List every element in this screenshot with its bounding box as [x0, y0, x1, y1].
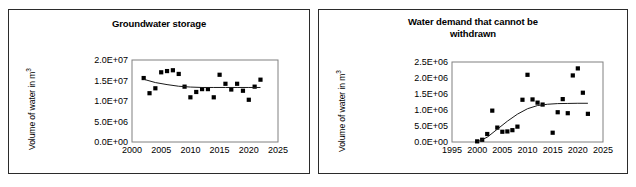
y-axis-label-left-exponent: 3: [25, 68, 32, 71]
y-tick-label: 2.0E+07: [94, 55, 128, 65]
data-point: [576, 66, 580, 70]
x-tick-label: 2020: [568, 145, 588, 155]
data-point: [241, 89, 245, 93]
data-point: [566, 111, 570, 115]
data-point: [500, 130, 504, 134]
data-point: [165, 69, 169, 73]
data-point: [171, 68, 175, 72]
data-point: [229, 87, 233, 91]
data-point: [490, 109, 494, 113]
data-point: [561, 97, 565, 101]
two-chart-figure: Groundwater storage Volume of water in m…: [0, 0, 636, 187]
scatter-plot-water-demand: 0.0E+005.0E+051.0E+061.5E+062.0E+062.5E+…: [404, 60, 609, 158]
y-tick-label: 2.0E+06: [414, 73, 448, 83]
y-axis-label-right: Volume of water in m3: [335, 70, 347, 152]
data-point: [530, 97, 534, 101]
data-point: [586, 112, 590, 116]
x-tick-label: 2000: [122, 145, 142, 155]
data-point: [194, 90, 198, 94]
panel-groundwater-storage: Groundwater storage Volume of water in m…: [8, 9, 310, 174]
y-axis-label-right-exponent: 3: [335, 70, 342, 73]
y-tick-label: 1.5E+06: [414, 89, 448, 99]
data-point: [159, 70, 163, 74]
data-point: [188, 95, 192, 99]
y-tick-label: 2.5E+06: [414, 57, 448, 67]
x-tick-label: 2020: [239, 145, 259, 155]
chart-title-groundwater-storage: Groundwater storage: [9, 18, 309, 30]
chart-title-water-demand-line1: Water demand that cannot be: [319, 16, 627, 28]
data-point: [556, 110, 560, 114]
x-tick-label: 2005: [151, 145, 171, 155]
y-axis-label-right-text: Volume of water in m: [337, 74, 347, 152]
data-point: [525, 73, 529, 77]
data-point: [515, 125, 519, 129]
x-tick-label: 2015: [210, 145, 230, 155]
data-point: [520, 98, 524, 102]
panel-water-demand: Water demand that cannot be withdrawn Vo…: [318, 9, 628, 174]
plot-area-right: 0.0E+005.0E+051.0E+061.5E+062.0E+062.5E+…: [404, 60, 609, 158]
data-point: [551, 131, 555, 135]
data-point: [147, 91, 151, 95]
x-tick-label: 2025: [268, 145, 288, 155]
data-point: [223, 82, 227, 86]
x-tick-label: 2010: [180, 145, 200, 155]
y-tick-label: 1.0E+07: [94, 96, 128, 106]
x-tick-label: 2010: [517, 145, 537, 155]
data-point: [153, 86, 157, 90]
data-point: [510, 128, 514, 132]
chart-title-water-demand: Water demand that cannot be withdrawn: [319, 16, 627, 39]
data-point: [571, 73, 575, 77]
data-point: [253, 85, 257, 89]
data-point: [535, 101, 539, 105]
y-tick-label: 5.0E+06: [94, 117, 128, 127]
plot-area-left: 0.0E+005.0E+061.0E+071.5E+072.0E+0720002…: [88, 58, 284, 158]
data-point: [258, 78, 262, 82]
x-tick-label: 2005: [492, 145, 512, 155]
data-point: [581, 91, 585, 95]
x-tick-label: 2015: [543, 145, 563, 155]
scatter-plot-groundwater: 0.0E+005.0E+061.0E+071.5E+072.0E+0720002…: [88, 58, 284, 158]
y-tick-label: 1.0E+06: [414, 105, 448, 115]
data-point: [235, 82, 239, 86]
x-tick-label: 1995: [442, 145, 462, 155]
y-tick-label: 5.0E+05: [414, 121, 448, 131]
data-point: [177, 72, 181, 76]
x-tick-label: 2000: [467, 145, 487, 155]
data-point: [218, 73, 222, 77]
data-point: [247, 98, 251, 102]
data-point: [505, 129, 509, 133]
plot-frame: [132, 60, 278, 142]
y-tick-label: 1.5E+07: [94, 76, 128, 86]
y-axis-label-left: Volume of water in m3: [25, 68, 37, 150]
data-point: [212, 95, 216, 99]
x-tick-label: 2025: [593, 145, 613, 155]
y-axis-label-left-text: Volume of water in m: [27, 72, 37, 150]
chart-title-water-demand-line2: withdrawn: [319, 28, 627, 40]
